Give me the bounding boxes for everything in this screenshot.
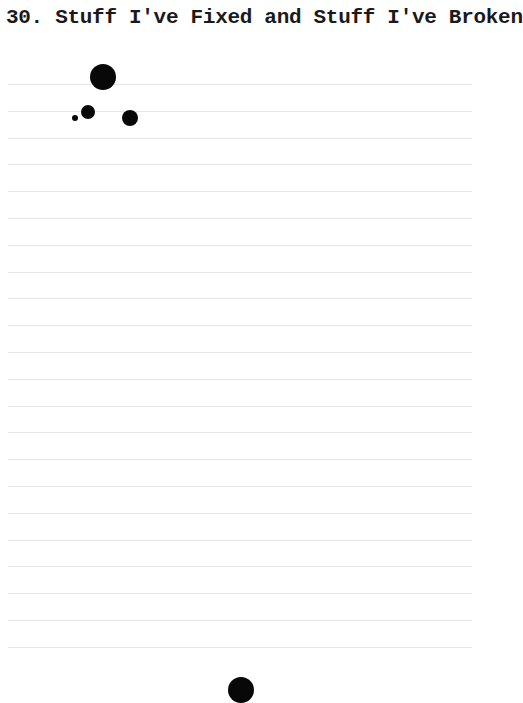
- ruled-line: [8, 111, 472, 112]
- ruled-line: [8, 432, 472, 433]
- ruled-line: [8, 84, 472, 85]
- ruled-line: [8, 298, 472, 299]
- ink-blot: [228, 677, 254, 703]
- ruled-line: [8, 191, 472, 192]
- ruled-line: [8, 593, 472, 594]
- ruled-line: [8, 352, 472, 353]
- ruled-line: [8, 245, 472, 246]
- ruled-line: [8, 138, 472, 139]
- ink-blot: [81, 105, 95, 119]
- ink-blot: [122, 110, 138, 126]
- ruled-line: [8, 164, 472, 165]
- ruled-line: [8, 486, 472, 487]
- ruled-line: [8, 566, 472, 567]
- ink-blot: [72, 115, 78, 121]
- page-title: 30. Stuff I've Fixed and Stuff I've Brok…: [6, 6, 523, 29]
- ruled-line: [8, 620, 472, 621]
- ruled-line: [8, 647, 472, 648]
- ruled-line: [8, 272, 472, 273]
- ruled-line: [8, 218, 472, 219]
- ruled-line: [8, 540, 472, 541]
- ink-blot: [90, 64, 116, 90]
- ruled-line: [8, 513, 472, 514]
- ruled-line: [8, 379, 472, 380]
- ruled-line: [8, 325, 472, 326]
- ruled-line: [8, 459, 472, 460]
- ruled-line: [8, 406, 472, 407]
